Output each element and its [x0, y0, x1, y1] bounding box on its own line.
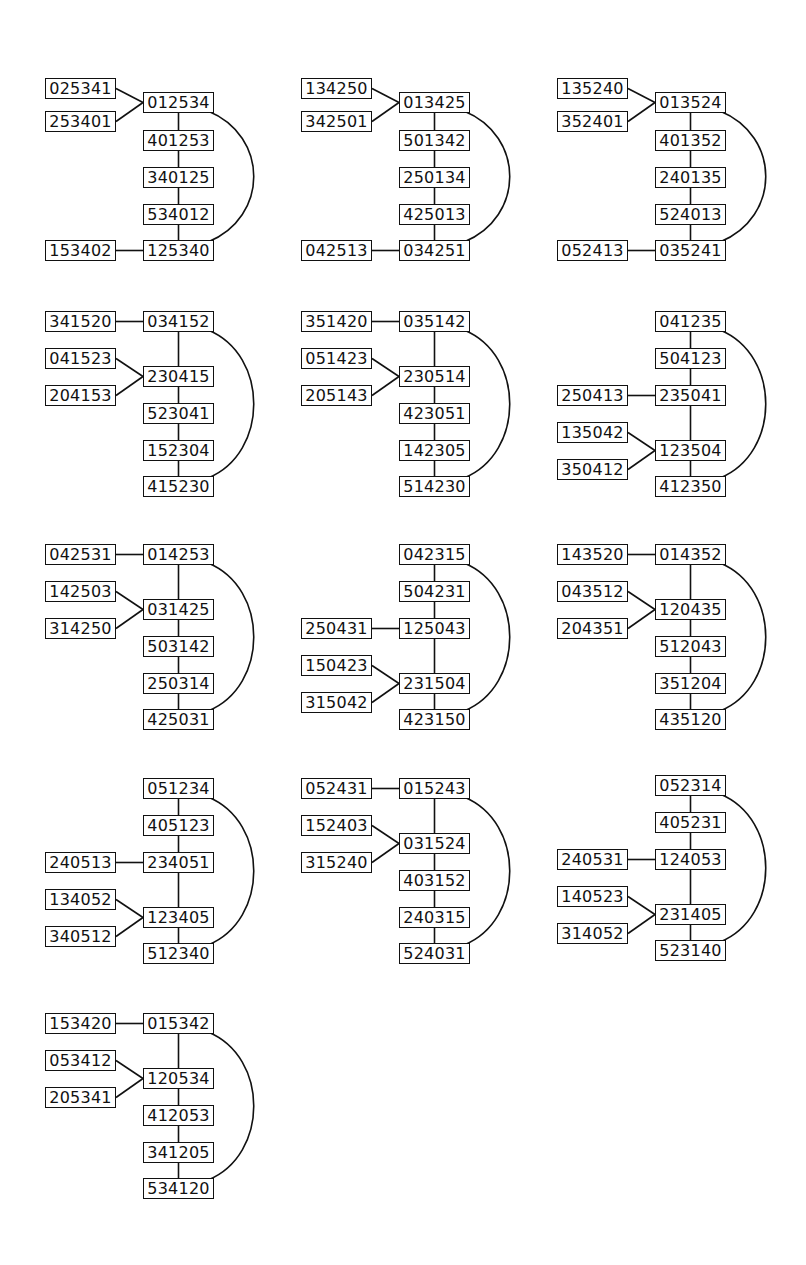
leaf-node: 240513	[45, 852, 116, 873]
chain-node: 534120	[143, 1178, 214, 1199]
chain-node: 524013	[655, 204, 726, 225]
chain-node: 501342	[399, 130, 470, 151]
diagram-panel: 0125344012533401255340121253400253412534…	[45, 78, 285, 278]
diagram-panel: 0152430315244031522403155240310524311524…	[301, 778, 541, 978]
chain-node: 015243	[399, 778, 470, 799]
chain-node: 240315	[399, 907, 470, 928]
chain-node: 042315	[399, 544, 470, 565]
chain-node: 231405	[655, 904, 726, 925]
leaf-node: 352401	[557, 111, 628, 132]
chain-node: 120435	[655, 599, 726, 620]
leaf-node: 041523	[45, 348, 116, 369]
chain-node: 523041	[143, 403, 214, 424]
chain-node: 401352	[655, 130, 726, 151]
chain-node: 425013	[399, 204, 470, 225]
leaf-node: 135042	[557, 422, 628, 443]
chain-node: 340125	[143, 167, 214, 188]
chain-node: 512043	[655, 636, 726, 657]
chain-node: 014352	[655, 544, 726, 565]
chain-node: 405231	[655, 812, 726, 833]
chain-node: 423051	[399, 403, 470, 424]
leaf-node: 042513	[301, 240, 372, 261]
chain-node: 051234	[143, 778, 214, 799]
diagram-panel: 0142530314255031422503144250310425311425…	[45, 544, 285, 744]
leaf-node: 351420	[301, 311, 372, 332]
chain-node: 123405	[143, 907, 214, 928]
chain-node: 035142	[399, 311, 470, 332]
diagram-panel: 0143521204355120433512044351201435200435…	[557, 544, 797, 744]
diagram-panel: 0423155042311250432315044231502504311504…	[301, 544, 541, 744]
leaf-node: 053412	[45, 1050, 116, 1071]
chain-node: 514230	[399, 476, 470, 497]
leaf-node: 134250	[301, 78, 372, 99]
diagram-panel: 0351422305144230511423055142303514200514…	[301, 311, 541, 511]
leaf-node: 250431	[301, 618, 372, 639]
chain-node: 341205	[143, 1142, 214, 1163]
chain-node: 142305	[399, 440, 470, 461]
chain-node: 125340	[143, 240, 214, 261]
diagram-panel: 0341522304155230411523044152303415200415…	[45, 311, 285, 511]
leaf-node: 153420	[45, 1013, 116, 1034]
leaf-node: 051423	[301, 348, 372, 369]
chain-node: 415230	[143, 476, 214, 497]
leaf-node: 025341	[45, 78, 116, 99]
chain-node: 031425	[143, 599, 214, 620]
chain-node: 234051	[143, 852, 214, 873]
chain-node: 351204	[655, 673, 726, 694]
chain-node: 152304	[143, 440, 214, 461]
leaf-node: 315240	[301, 852, 372, 873]
chain-node: 512340	[143, 943, 214, 964]
diagram-panel: 0523144052311240532314055231402405311405…	[557, 775, 797, 975]
chain-node: 423150	[399, 709, 470, 730]
leaf-node: 135240	[557, 78, 628, 99]
leaf-node: 253401	[45, 111, 116, 132]
chain-node: 523140	[655, 940, 726, 961]
leaf-node: 143520	[557, 544, 628, 565]
leaf-node: 315042	[301, 692, 372, 713]
chain-node: 401253	[143, 130, 214, 151]
chain-node: 015342	[143, 1013, 214, 1034]
chain-node: 013425	[399, 92, 470, 113]
chain-node: 503142	[143, 636, 214, 657]
leaf-node: 142503	[45, 581, 116, 602]
leaf-node: 042531	[45, 544, 116, 565]
leaf-node: 043512	[557, 581, 628, 602]
chain-node: 012534	[143, 92, 214, 113]
diagram-panel: 0134255013422501344250130342511342503425…	[301, 78, 541, 278]
chain-node: 504231	[399, 581, 470, 602]
chain-node: 231504	[399, 673, 470, 694]
chain-node: 123504	[655, 440, 726, 461]
chain-node: 230514	[399, 366, 470, 387]
leaf-node: 153402	[45, 240, 116, 261]
leaf-node: 052431	[301, 778, 372, 799]
chain-node: 250314	[143, 673, 214, 694]
leaf-node: 205341	[45, 1087, 116, 1108]
leaf-node: 350412	[557, 459, 628, 480]
chain-node: 013524	[655, 92, 726, 113]
leaf-node: 205143	[301, 385, 372, 406]
chain-node: 504123	[655, 348, 726, 369]
chain-node: 403152	[399, 870, 470, 891]
chain-node: 031524	[399, 833, 470, 854]
leaf-node: 314052	[557, 923, 628, 944]
chain-node: 034251	[399, 240, 470, 261]
chain-node: 035241	[655, 240, 726, 261]
leaf-node: 342501	[301, 111, 372, 132]
diagram-panel: 0412355041232350411235044123502504131350…	[557, 311, 797, 511]
chain-node: 125043	[399, 618, 470, 639]
leaf-node: 052413	[557, 240, 628, 261]
chain-node: 014253	[143, 544, 214, 565]
chain-node: 435120	[655, 709, 726, 730]
leaf-node: 204153	[45, 385, 116, 406]
chain-node: 230415	[143, 366, 214, 387]
chain-node: 052314	[655, 775, 726, 796]
chain-node: 524031	[399, 943, 470, 964]
chain-node: 240135	[655, 167, 726, 188]
chain-node: 250134	[399, 167, 470, 188]
chain-node: 412053	[143, 1105, 214, 1126]
leaf-node: 204351	[557, 618, 628, 639]
leaf-node: 150423	[301, 655, 372, 676]
chain-node: 120534	[143, 1068, 214, 1089]
leaf-node: 341520	[45, 311, 116, 332]
chain-node: 534012	[143, 204, 214, 225]
